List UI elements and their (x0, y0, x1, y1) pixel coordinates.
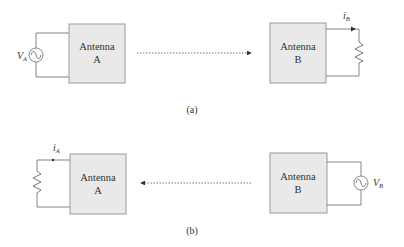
antenna-b-box: Antenna B (270, 153, 327, 213)
antenna-a-letter: A (93, 54, 101, 65)
source-label-va: VA (17, 50, 27, 62)
voltage-source-a-circuit: VA (17, 33, 69, 77)
resistor-icon (33, 171, 41, 193)
reciprocity-diagram: VA Antenna A Antenna B iB (a) (0, 0, 404, 247)
load-resistor-a-circuit: iA (33, 142, 70, 207)
resistor-icon (355, 42, 363, 63)
current-label-ib: iB (343, 10, 350, 22)
antenna-a-label: Antenna (80, 172, 116, 183)
antenna-a-box: Antenna A (70, 154, 126, 214)
current-label-ia: iA (53, 142, 60, 154)
source-label-vb: VB (373, 177, 383, 189)
antenna-a-box: Antenna A (69, 24, 125, 83)
antenna-b-label: Antenna (280, 171, 316, 182)
antenna-b-label: Antenna (280, 41, 316, 52)
antenna-a-label: Antenna (79, 41, 115, 52)
load-resistor-b-circuit: iB (326, 10, 363, 76)
panel-a: VA Antenna A Antenna B iB (a) (17, 10, 363, 116)
caption-b: (b) (186, 225, 198, 237)
panel-b: iA Antenna A Antenna B VB (b) (33, 142, 383, 237)
antenna-b-box: Antenna B (270, 23, 326, 83)
voltage-source-b-circuit: VB (327, 162, 383, 205)
caption-a: (a) (186, 104, 197, 116)
antenna-b-letter: B (294, 184, 301, 195)
antenna-b-letter: B (294, 54, 301, 65)
antenna-a-letter: A (94, 185, 102, 196)
